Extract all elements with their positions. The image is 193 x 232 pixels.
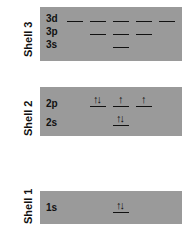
shell-2-label: Shell 2 [22, 122, 34, 136]
orbital-2s-1 [113, 125, 129, 126]
subshell-3s-label: 3s [46, 39, 57, 50]
orbital-3d-4 [136, 21, 152, 22]
orbital-3s-1 [113, 47, 129, 48]
electron-up-arrow-icon: ↑ [118, 94, 122, 105]
orbital-2p-3 [136, 106, 152, 107]
orbital-3d-2 [90, 21, 106, 22]
orbital-3p-3 [136, 34, 152, 35]
orbital-2p-1 [90, 106, 106, 107]
subshell-3d-label: 3d [46, 13, 58, 24]
electron-pair-arrows-icon: ↑↓ [116, 113, 123, 124]
orbital-3p-2 [113, 34, 129, 35]
subshell-1s-label: 1s [46, 202, 57, 213]
orbital-3d-3 [113, 21, 129, 22]
subshell-2s-label: 2s [46, 117, 57, 128]
shell-3-label: Shell 3 [22, 43, 34, 57]
shell-3-box: 3d 3p 3s [40, 7, 182, 61]
shell-1-label: Shell 1 [22, 210, 34, 224]
orbital-1s-1 [113, 212, 129, 213]
electron-up-arrow-icon: ↑ [141, 94, 145, 105]
orbital-3p-1 [90, 34, 106, 35]
subshell-2p-label: 2p [46, 98, 58, 109]
orbital-3d-1 [67, 21, 83, 22]
orbital-3d-5 [159, 21, 175, 22]
shell-1-box: 1s ↑↓ [40, 191, 182, 224]
shell-2-box: 2p 2s ↑↓ ↑ ↑ ↑↓ [40, 87, 182, 136]
electron-pair-arrows-icon: ↑↓ [93, 94, 100, 105]
electron-pair-arrows-icon: ↑↓ [116, 200, 123, 211]
orbital-2p-2 [113, 106, 129, 107]
subshell-3p-label: 3p [46, 26, 58, 37]
